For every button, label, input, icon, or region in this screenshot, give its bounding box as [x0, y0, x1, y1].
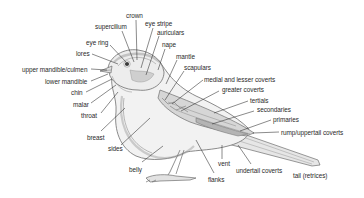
label-secondaries: secondaries — [257, 107, 291, 113]
label-auriculars: auriculars — [157, 30, 184, 36]
bird-anatomy-diagram: crownsuperciliumeye stripeauricularseye … — [0, 0, 364, 198]
label-tail-retrices: tail (retrices) — [293, 173, 327, 179]
label-chin: chin — [71, 90, 83, 96]
label-supercilium: supercilium — [95, 24, 127, 30]
label-belly: belly — [129, 167, 142, 173]
label-rump-uppertail-coverts: rump/uppertail coverts — [281, 130, 343, 136]
label-eye-ring: eye ring — [86, 40, 108, 46]
label-vent: vent — [218, 161, 230, 167]
label-tertials: tertials — [250, 98, 268, 104]
label-nape: nape — [162, 42, 176, 48]
leader-line-rump-uppertail-coverts — [253, 132, 279, 133]
label-sides: sides — [108, 146, 123, 152]
label-flanks: flanks — [208, 177, 224, 183]
label-eye-stripe: eye stripe — [145, 21, 172, 27]
label-undertail-coverts: undertail coverts — [236, 168, 282, 174]
label-lores: lores — [76, 51, 90, 57]
leader-line-lower-mandible — [91, 74, 108, 81]
label-lower-mandible: lower mandible — [45, 79, 87, 85]
label-throat: throat — [81, 113, 97, 119]
label-mantle: mantle — [176, 54, 195, 60]
head-shape — [100, 50, 164, 92]
label-primaries: primaries — [273, 117, 299, 123]
label-greater-coverts: greater coverts — [222, 87, 264, 93]
eye-icon — [125, 62, 129, 66]
label-scapulars: scapulars — [184, 65, 211, 71]
leader-line-chin — [86, 79, 112, 92]
label-breast: breast — [87, 135, 104, 141]
label-upper-mandible-culmen: upper mandible/culmen — [22, 67, 87, 73]
label-medial-and-lesser-coverts: medial and lesser coverts — [204, 77, 275, 83]
label-crown: crown — [126, 13, 143, 19]
label-malar: malar — [73, 102, 89, 108]
